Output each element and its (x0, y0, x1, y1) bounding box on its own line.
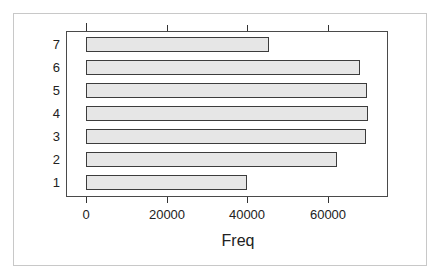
top-tick (247, 25, 248, 31)
bar-2 (86, 152, 337, 167)
x-tick (247, 197, 248, 203)
x-tick-label: 40000 (217, 207, 277, 222)
x-tick (328, 197, 329, 203)
x-axis-title: Freq (208, 232, 268, 250)
bar-5 (86, 83, 367, 98)
y-tick-label: 1 (40, 175, 60, 190)
x-tick (167, 197, 168, 203)
bar-6 (86, 60, 360, 75)
y-tick-label: 6 (40, 60, 60, 75)
y-tick-label: 4 (40, 106, 60, 121)
x-tick-label: 20000 (137, 207, 197, 222)
y-tick-label: 5 (40, 83, 60, 98)
x-tick-label: 60000 (298, 207, 358, 222)
top-tick (328, 25, 329, 31)
bar-3 (86, 129, 366, 144)
bar-7 (86, 37, 269, 52)
x-tick (86, 197, 87, 203)
bar-4 (86, 106, 368, 121)
y-tick-label: 7 (40, 37, 60, 52)
y-tick-label: 2 (40, 152, 60, 167)
top-tick (86, 23, 87, 31)
y-tick-label: 3 (40, 129, 60, 144)
x-tick-label: 0 (56, 207, 116, 222)
bar-1 (86, 175, 247, 190)
top-tick (167, 25, 168, 31)
